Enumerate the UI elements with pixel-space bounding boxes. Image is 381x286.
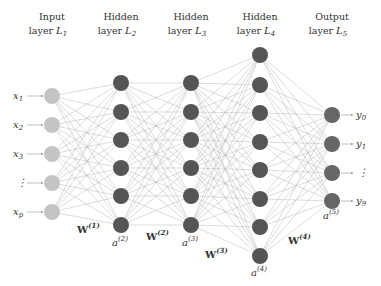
edge [197, 175, 253, 220]
output-neuron [324, 193, 340, 209]
hidden-neuron [252, 219, 268, 235]
hidden-neuron [113, 217, 129, 233]
input-neuron [44, 117, 60, 133]
output-label: y9 [355, 195, 367, 208]
input-label: xp [13, 206, 24, 219]
hidden-neuron [252, 47, 268, 63]
layer-name: layer L1 [29, 25, 67, 38]
activation-label: a(3) [182, 235, 198, 248]
edge [197, 90, 253, 135]
layer-name: layer L3 [168, 25, 207, 38]
edge [198, 173, 252, 193]
edge [60, 213, 113, 223]
edge [268, 204, 325, 225]
edge [57, 90, 117, 177]
neural-network-diagram: Inputlayer L1Hiddenlayer L2Hiddenlayer L… [0, 0, 381, 286]
edge [56, 90, 117, 205]
layer-name: layer L5 [309, 25, 348, 38]
edge [264, 122, 329, 249]
hidden-neuron [183, 132, 199, 148]
hidden-neuron [183, 188, 199, 204]
edge [198, 202, 252, 222]
edge [58, 89, 116, 149]
edge [198, 88, 252, 109]
hidden-neuron [113, 160, 129, 176]
edge [267, 88, 324, 112]
layer-name: layer L4 [237, 25, 275, 38]
input-label: ⋮ [17, 177, 27, 188]
edge [267, 145, 324, 170]
hidden-neuron [183, 104, 199, 120]
edge [60, 156, 113, 167]
edge [198, 199, 252, 223]
hidden-neuron [113, 188, 129, 204]
edge [266, 149, 325, 194]
layer-title: Hidden [173, 11, 208, 22]
hidden-neuron [183, 75, 199, 91]
input-neuron [44, 146, 60, 162]
weight-matrix-label: W(2) [145, 228, 169, 242]
edge [198, 58, 252, 80]
edge [267, 118, 324, 139]
weight-matrix-label: W(3) [204, 246, 228, 260]
activation-label: a(4) [251, 265, 267, 278]
input-neuron [44, 175, 60, 191]
input-neuron [44, 88, 60, 104]
edge [58, 102, 116, 162]
hidden-neuron [113, 75, 129, 91]
hidden-neuron [252, 191, 268, 207]
hidden-neuron [113, 132, 129, 148]
edge [60, 198, 113, 210]
activation-label: a(5) [323, 208, 339, 221]
hidden-neuron [113, 104, 129, 120]
output-label: y1 [355, 138, 366, 151]
edge [59, 87, 114, 121]
edge [60, 184, 113, 194]
output-neuron [324, 165, 340, 181]
layer-titles: Inputlayer L1Hiddenlayer L2Hiddenlayer L… [29, 11, 349, 38]
edge [196, 61, 255, 134]
input-label: x1 [13, 90, 23, 103]
activation-label: a(2) [112, 235, 128, 248]
edge [59, 158, 114, 192]
edge [265, 121, 327, 193]
hidden-neuron [183, 217, 199, 233]
edge [199, 225, 252, 227]
edge [196, 148, 255, 219]
edge [264, 62, 329, 194]
neurons [44, 47, 340, 264]
hidden-neuron [252, 134, 268, 150]
edge [198, 86, 252, 110]
edge [194, 62, 257, 217]
output-neuron [324, 107, 340, 123]
output-label: y0 [355, 109, 367, 122]
layer-title: Hidden [242, 11, 277, 22]
activation-labels: a(2)a(3)a(4)a(5) [112, 208, 339, 278]
layer-name: layer L2 [98, 25, 137, 38]
edge [60, 84, 113, 94]
layer-title: Output [315, 11, 349, 22]
output-neuron [324, 136, 340, 152]
edge [265, 91, 327, 167]
hidden-neuron [183, 160, 199, 176]
layer-title: Hidden [103, 11, 138, 22]
hidden-neuron [252, 77, 268, 93]
edge [198, 115, 252, 139]
edge [264, 122, 327, 221]
edge [265, 61, 327, 138]
edge [196, 91, 255, 162]
output-label: ⋮ [358, 167, 368, 178]
input-label: x2 [13, 119, 24, 132]
weight-matrix-label: W(1) [76, 221, 100, 235]
input-label: x3 [13, 148, 24, 161]
layer-title: Input [39, 11, 65, 22]
weight-matrix-label: W(4) [287, 232, 311, 246]
edge [58, 146, 116, 206]
hidden-neuron [252, 105, 268, 121]
input-neuron [44, 204, 60, 220]
hidden-neuron [252, 162, 268, 178]
edge [266, 60, 326, 110]
hidden-neuron [252, 248, 268, 264]
